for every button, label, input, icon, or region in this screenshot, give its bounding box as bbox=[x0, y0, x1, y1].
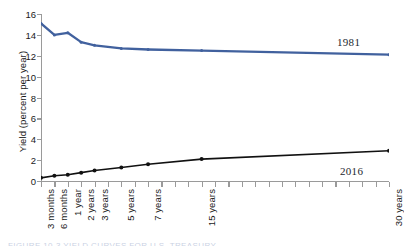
x-axis-ticks bbox=[41, 182, 389, 188]
data-point bbox=[147, 48, 150, 51]
x-tick-mark bbox=[41, 182, 42, 187]
x-tick-label: 3 years bbox=[99, 189, 110, 221]
y-tick-label: 4 bbox=[31, 134, 36, 145]
x-tick-mark bbox=[135, 182, 136, 187]
x-tick-label: 1 year bbox=[72, 189, 83, 216]
figure-caption: FIGURE 10-3 YIELD CURVES FOR U.S. TREASU… bbox=[8, 241, 348, 246]
y-tick-label: 16 bbox=[25, 9, 36, 20]
y-tick-label: 0 bbox=[31, 176, 36, 187]
x-tick-mark bbox=[175, 182, 176, 187]
x-tick-mark bbox=[389, 182, 390, 187]
x-axis-labels: 3 months6 months1 year2 years3 years5 ye… bbox=[41, 189, 389, 247]
x-tick-mark bbox=[335, 182, 336, 187]
data-point bbox=[80, 41, 83, 44]
figure-caption-text: FIGURE 10-3 YIELD CURVES FOR U.S. TREASU… bbox=[8, 241, 348, 246]
data-point bbox=[387, 149, 389, 153]
x-tick-mark bbox=[242, 182, 243, 187]
y-tick-label: 12 bbox=[25, 50, 36, 61]
x-tick-mark bbox=[95, 182, 96, 187]
x-tick-mark bbox=[362, 182, 363, 187]
x-tick-label: 15 years bbox=[206, 189, 217, 226]
series-annotation-1981: 1981 bbox=[337, 36, 360, 48]
y-tick-mark bbox=[37, 14, 41, 15]
x-tick-mark bbox=[282, 182, 283, 187]
data-point bbox=[41, 176, 43, 180]
data-point bbox=[200, 157, 204, 161]
y-tick-label: 8 bbox=[31, 92, 36, 103]
x-tick-mark bbox=[215, 182, 216, 187]
x-tick-mark bbox=[228, 182, 229, 187]
data-point bbox=[146, 162, 150, 166]
y-tick-label: 14 bbox=[25, 29, 36, 40]
x-tick-label: 2 years bbox=[85, 189, 96, 221]
y-tick-label: 10 bbox=[25, 71, 36, 82]
x-tick-mark bbox=[188, 182, 189, 187]
y-tick-mark bbox=[37, 77, 41, 78]
x-tick-label: 5 years bbox=[125, 189, 136, 221]
y-tick-mark bbox=[37, 160, 41, 161]
data-point bbox=[66, 173, 70, 177]
y-tick-label: 6 bbox=[31, 113, 36, 124]
x-tick-label: 30 years bbox=[393, 189, 404, 226]
y-tick-mark bbox=[37, 139, 41, 140]
x-tick-mark bbox=[322, 182, 323, 187]
x-tick-mark bbox=[121, 182, 122, 187]
x-tick-mark bbox=[54, 182, 55, 187]
y-tick-mark bbox=[37, 118, 41, 119]
x-tick-label: 6 months bbox=[58, 189, 69, 229]
x-tick-mark bbox=[309, 182, 310, 187]
data-point bbox=[120, 47, 123, 50]
series-line-2016 bbox=[41, 151, 389, 178]
x-tick-label: 3 months bbox=[45, 189, 56, 229]
data-point bbox=[53, 33, 56, 36]
x-tick-mark bbox=[81, 182, 82, 187]
x-tick-mark bbox=[255, 182, 256, 187]
y-tick-label: 2 bbox=[31, 155, 36, 166]
data-point bbox=[79, 171, 83, 175]
data-point bbox=[93, 169, 97, 173]
y-tick-mark bbox=[37, 98, 41, 99]
x-tick-mark bbox=[161, 182, 162, 187]
y-tick-mark bbox=[37, 35, 41, 36]
x-tick-mark bbox=[148, 182, 149, 187]
x-tick-mark bbox=[68, 182, 69, 187]
x-tick-mark bbox=[269, 182, 270, 187]
x-tick-mark bbox=[108, 182, 109, 187]
x-tick-mark bbox=[376, 182, 377, 187]
x-tick-mark bbox=[295, 182, 296, 187]
data-point bbox=[93, 44, 96, 47]
data-point bbox=[66, 31, 69, 34]
data-point bbox=[52, 174, 56, 178]
x-tick-mark bbox=[349, 182, 350, 187]
y-tick-mark bbox=[37, 56, 41, 57]
data-point bbox=[119, 165, 123, 169]
series-annotation-2016: 2016 bbox=[340, 165, 363, 177]
x-tick-label: 7 years bbox=[152, 189, 163, 221]
data-point bbox=[200, 49, 203, 52]
x-tick-mark bbox=[202, 182, 203, 187]
